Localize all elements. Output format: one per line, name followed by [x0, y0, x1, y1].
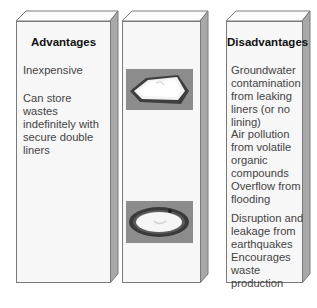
disadvantage-item: Air pollution from volatile organic comp… [231, 128, 307, 180]
disadvantage-item: Encourages waste production [231, 251, 309, 290]
disadvantage-item: Groundwater contamination from leaking l… [231, 64, 309, 129]
disadvantages-heading: Disadvantages [227, 36, 302, 48]
disadvantages-face: Disadvantages Groundwater contamination … [226, 21, 303, 283]
disadvantage-item: Overflow from flooding [231, 180, 307, 206]
disadvantage-item: Disruption and leakage from earthquakes [231, 212, 307, 251]
